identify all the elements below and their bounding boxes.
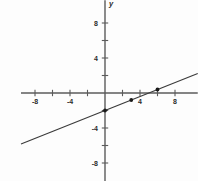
y-axis-label: y [108,0,114,8]
data-point [103,109,107,113]
data-point [156,88,160,92]
x-tick-label: -4 [67,98,73,105]
data-point [129,98,133,102]
x-tick-label: -8 [32,98,38,105]
axes-group [21,0,198,181]
data-series-group [21,73,198,144]
y-tick-label: -8 [92,160,98,167]
y-tick-label: 4 [94,55,98,62]
plot-area: -8-448 84-4-8 x y [0,0,198,181]
line-graph [21,73,198,144]
y-tick-label: 8 [94,20,98,27]
y-tick-label: -4 [92,125,98,132]
x-tick-label: 4 [138,98,142,105]
coordinate-graph: -8-448 84-4-8 x y [0,0,198,181]
x-tick-label: 8 [173,98,177,105]
data-points-group [103,88,159,113]
